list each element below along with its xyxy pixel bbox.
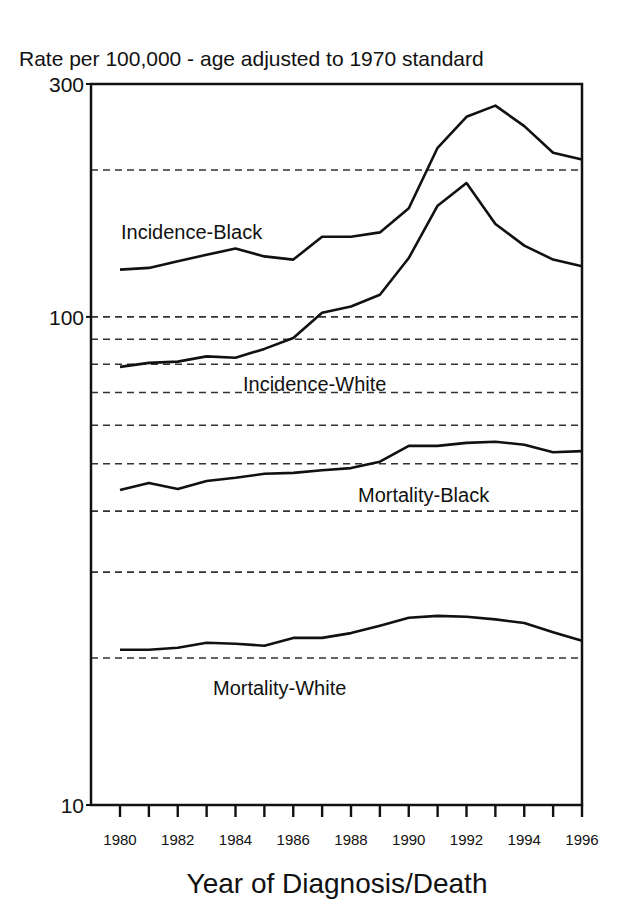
chart-canvas: Rate per 100,000 - age adjusted to 1970 … bbox=[0, 0, 644, 905]
series-line-mortality-black bbox=[120, 442, 582, 490]
series-line-mortality-white bbox=[120, 616, 582, 650]
x-tick-label: 1996 bbox=[565, 831, 598, 848]
series-label-mortality-white: Mortality-White bbox=[213, 677, 346, 699]
y-tick-label: 300 bbox=[49, 73, 84, 96]
series-line-incidence-black bbox=[120, 106, 582, 270]
x-tick-label: 1984 bbox=[219, 831, 252, 848]
x-tick-label: 1980 bbox=[103, 831, 136, 848]
x-axis: 198019821984198619881990199219941996 bbox=[103, 805, 598, 848]
series-label-incidence-black: Incidence-Black bbox=[121, 221, 263, 243]
chart-title: Rate per 100,000 - age adjusted to 1970 … bbox=[19, 47, 484, 70]
y-tick-label: 10 bbox=[61, 794, 84, 817]
series-labels: Incidence-BlackIncidence-WhiteMortality-… bbox=[121, 221, 490, 699]
gridlines bbox=[91, 170, 582, 658]
x-tick-label: 1994 bbox=[508, 831, 541, 848]
x-tick-label: 1992 bbox=[450, 831, 483, 848]
x-axis-title: Year of Diagnosis/Death bbox=[187, 868, 488, 899]
series-label-incidence-white: Incidence-White bbox=[243, 373, 386, 395]
x-tick-label: 1988 bbox=[334, 831, 367, 848]
x-tick-label: 1982 bbox=[161, 831, 194, 848]
y-tick-label: 100 bbox=[49, 306, 84, 329]
y-axis: 30010010 bbox=[49, 73, 91, 817]
x-tick-label: 1986 bbox=[277, 831, 310, 848]
series-label-mortality-black: Mortality-Black bbox=[358, 484, 490, 506]
x-tick-label: 1990 bbox=[392, 831, 425, 848]
